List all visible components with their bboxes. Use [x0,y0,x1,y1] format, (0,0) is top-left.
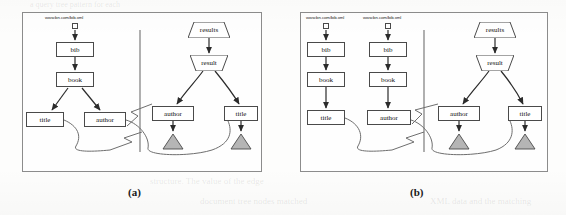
figure-container: www.bn.com/bib.xml bib book title author… [0,0,566,215]
node-label: bib [322,46,331,54]
node-title: title [26,112,64,127]
source-url-label: www.bn.com/bib.xml [306,15,344,20]
node-label: bib [71,46,80,54]
node-results: results [474,22,516,38]
node-results: results [188,22,230,38]
document-root-node [323,23,329,29]
node-author: author [84,112,126,127]
node-label: author [96,116,114,124]
binding-curve-author [126,120,230,155]
node-title-result: title [508,106,542,121]
node-author: author [367,110,411,125]
node-label: title [520,110,531,118]
leaf-triangle [163,134,183,149]
node-result: result [476,55,514,71]
leaf-triangle [449,134,469,149]
edge-result-author [177,71,203,104]
node-label: book [319,76,333,84]
node-label: results [200,26,218,34]
node-bib: bib [369,42,407,57]
leaf-triangle [231,134,251,149]
node-title-result: title [224,106,258,121]
source-url-label: www.bn.com/bib.xml [45,15,83,20]
node-author-result: author [438,106,480,121]
zigzag-connector-lower [110,132,142,150]
node-label: results [486,26,504,34]
node-label: book [68,76,82,84]
node-book: book [56,72,94,87]
node-label: author [450,110,468,118]
node-label: title [40,116,51,124]
document-root-node [72,23,78,29]
node-bib: bib [307,42,345,57]
edge-result-title [501,71,523,104]
node-title: title [307,110,345,125]
node-label: title [236,110,247,118]
node-label: author [164,110,182,118]
leaf-triangle [515,134,535,149]
node-label: bib [384,46,393,54]
document-root-node [385,23,391,29]
edge-result-title [215,71,239,104]
node-book: book [307,72,345,87]
zigzag-connector-lower [392,132,424,150]
edge-result-author [463,71,489,104]
node-label: title [321,114,332,122]
node-label: result [201,59,217,67]
source-url-label: www.bn.com/bib.xml [363,15,401,20]
node-bib: bib [56,42,94,57]
node-book: book [369,72,407,87]
node-label: book [381,76,395,84]
edge-book-author [82,88,100,110]
node-author-result: author [152,106,194,121]
node-result: result [190,55,228,71]
edge-book-title [52,88,68,110]
node-label: author [380,114,398,122]
zigzag-connector-upper [412,104,438,124]
node-label: result [487,59,503,67]
